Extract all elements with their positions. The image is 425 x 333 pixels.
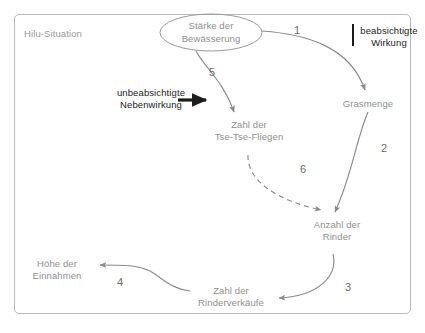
node-grasmenge: Grasmenge [330,98,406,110]
legend-beabsichtigte-line1: beabsichtigte [357,25,421,37]
node-tsetse-line2: Tse-Tse-Fliegen [202,131,296,143]
edge-number-2: 2 [377,143,391,154]
node-einnahmen-line1: Höhe der [17,258,97,270]
node-rinderverkaeufe-line2: Rinderverkäufe [183,297,279,309]
edge-number-6: 6 [296,164,310,175]
node-rinderverkaeufe: Zahl der Rinderverkäufe [183,285,279,309]
arrow-layer [0,0,425,333]
node-rinderverkaeufe-line1: Zahl der [183,285,279,297]
edge-1-path [262,31,365,90]
node-bewaesserung-line1: Stärke der [161,20,261,33]
node-rinder: Anzahl der Rinder [296,219,378,243]
node-grasmenge-line1: Grasmenge [330,98,406,110]
edge-6-path [248,155,321,210]
legend-beabsichtigte: beabsichtigte Wirkung [357,25,421,49]
node-rinder-line1: Anzahl der [296,219,378,231]
node-rinder-line2: Rinder [296,231,378,243]
node-bewaesserung: Stärke der Bewässerung [161,20,261,45]
beabsichtigte-bar-icon [352,24,354,46]
edge-2-path [335,112,368,212]
legend-beabsichtigte-line2: Wirkung [357,37,421,49]
diagram-canvas: Hilu-Situation [0,0,425,333]
edge-number-5: 5 [205,67,219,78]
node-bewaesserung-line2: Bewässerung [161,33,261,46]
edge-number-3: 3 [341,282,355,293]
edge-number-1: 1 [290,25,304,36]
edge-number-4: 4 [113,277,127,288]
edge-3-path [279,254,334,298]
legend-unbeabsichtigte: unbeabsichtigte Nebenwirkung [110,87,192,111]
node-einnahmen-line2: Einnahmen [17,270,97,282]
node-tsetse: Zahl der Tse-Tse-Fliegen [202,119,296,143]
legend-unbeabsichtigte-line1: unbeabsichtigte [110,87,192,99]
edge-5-path [196,51,234,112]
node-tsetse-line1: Zahl der [202,119,296,131]
node-einnahmen: Höhe der Einnahmen [17,258,97,282]
legend-unbeabsichtigte-line2: Nebenwirkung [110,99,192,111]
